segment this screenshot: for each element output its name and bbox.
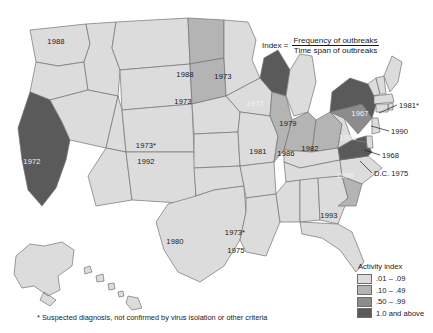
year-label-washington: 1988 [47,37,64,46]
state-maine [384,56,402,92]
year-label-illinois: 1981 [249,147,266,156]
year-label-california: 1972 [23,157,40,166]
state-north-dakota [188,18,224,64]
legend-label-2: .50 – .99 [376,297,406,306]
legend-row-3: 1.0 and above [357,308,424,318]
legend-row-1: .10 – .49 [357,285,424,295]
callout-label-new-jersey: 1990 [391,127,408,136]
state-florida [300,222,364,272]
legend: Activity index .01 – .09.10 – .49.50 – .… [357,262,424,320]
state-rhode-island [388,103,393,110]
us-outbreak-map: Index = Frequency of outbreaks Time span… [0,0,433,333]
state-hawaii [84,266,142,310]
year-label-michigan: 1979 [279,119,296,128]
year-label-minnesota: 1973 [214,72,231,81]
state-alaska [14,242,74,306]
legend-label-3: 1.0 and above [376,309,424,318]
state-massachusetts [374,94,394,104]
index-formula: Index = Frequency of outbreaks Time span… [262,36,380,56]
state-colorado [122,104,194,152]
state-louisiana [240,194,280,256]
legend-swatch-3 [357,308,372,318]
year-label-virginia: 1986 [336,171,353,180]
callout-label-delaware: 1968 [382,151,399,160]
state-arkansas [240,162,276,198]
legend-swatch-1 [357,285,372,295]
state-michigan [286,54,316,116]
year-label-colorado: 1992 [137,157,154,166]
callout-label-district-of-columbia: D.C. 1975 [374,169,408,178]
year-label-texas: 1980 [166,237,183,246]
year-label-south-carolina: 1993 [320,211,337,220]
year-label-wisconsin: 1973 [246,99,263,108]
year-label-ohio: 1982 [301,144,318,153]
callout-label-rhode-island: 1981* [399,101,419,110]
year-label-louisiana-suspected: 1973* [225,228,245,237]
legend-row-2: .50 – .99 [357,297,424,307]
legend-swatch-2 [357,297,372,307]
footnote: * Suspected diagnosis, not confirmed by … [37,313,267,322]
year-label-indiana: 1986 [277,149,294,158]
state-montana [112,18,190,70]
year-label-south-dakota: 1973 [174,97,191,106]
state-mississippi [276,180,300,222]
formula-denominator: Time span of outbreaks [292,45,379,55]
legend-label-1: .10 – .49 [376,286,406,295]
state-kansas [194,132,240,168]
formula-label: Index = [262,41,288,50]
state-arizona [88,148,132,206]
year-label-north-dakota: 1988 [176,70,193,79]
year-label-colorado-suspected: 1973* [136,141,156,150]
year-label-pennsylvania: 1968 [339,133,356,142]
year-label-louisiana: 1975 [227,246,244,255]
legend-label-0: .01 – .09 [376,274,406,283]
state-new-jersey [372,118,380,134]
state-alabama [300,178,320,222]
year-label-new-york: 1967 [351,109,368,118]
formula-numerator: Frequency of outbreaks [291,36,379,45]
legend-swatch-0 [357,274,372,284]
legend-row-0: .01 – .09 [357,274,424,284]
legend-title: Activity index [357,262,424,271]
state-connecticut [376,104,388,112]
